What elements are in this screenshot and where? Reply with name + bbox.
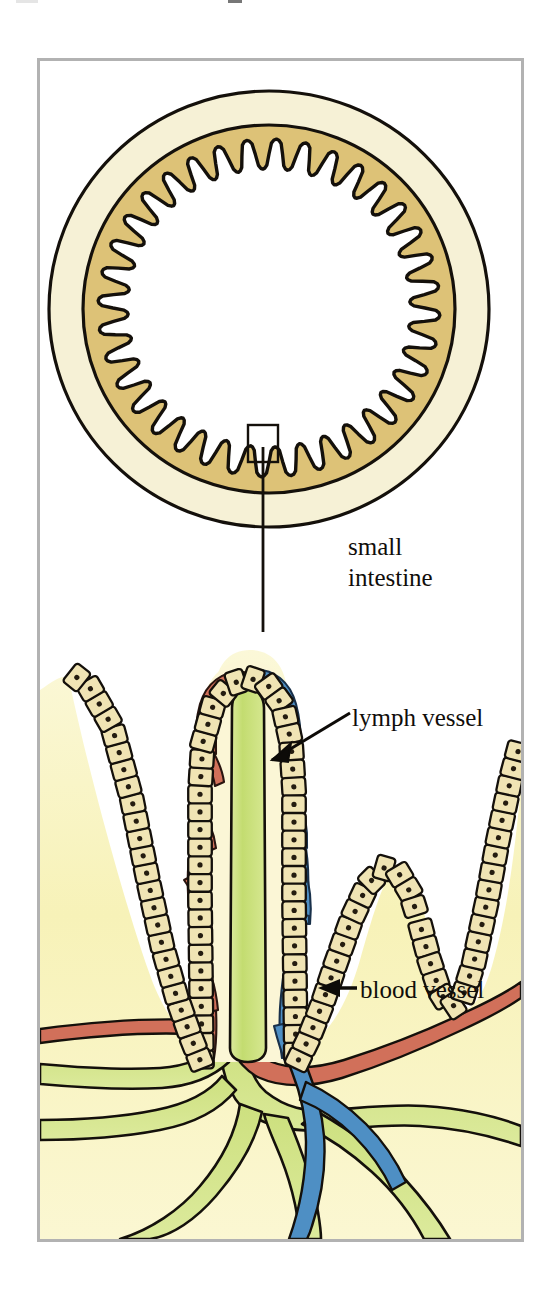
cell-nucleus <box>197 827 202 832</box>
label-blood-vessel: blood vessel <box>360 975 484 1006</box>
cell-nucleus <box>291 873 296 878</box>
epithelial-cell <box>283 937 307 956</box>
cell-nucleus <box>197 809 202 814</box>
epithelial-cell <box>188 820 212 838</box>
epithelial-cell <box>283 972 307 991</box>
epithelial-cell <box>283 990 307 1009</box>
cell-nucleus <box>291 820 296 825</box>
label-small-intestine-line2: intestine <box>348 563 433 594</box>
epithelial-cell <box>282 866 306 884</box>
epithelial-cell <box>282 884 306 902</box>
epithelial-cell <box>189 944 213 963</box>
epithelial-cell <box>188 838 212 856</box>
epithelial-cell <box>189 979 213 998</box>
cell-nucleus <box>291 837 296 842</box>
epithelial-cell <box>281 777 306 797</box>
epithelial-cell <box>188 803 212 821</box>
epithelial-cell <box>188 873 212 891</box>
villus-detail-panel <box>40 650 532 1239</box>
cell-nucleus <box>197 880 202 885</box>
lacteal-lymph-vessel <box>230 688 266 1062</box>
figure-canvas: small intestine lymph vessel blood vesse… <box>0 0 558 1309</box>
cell-nucleus <box>291 890 296 895</box>
label-small-intestine-line1: small <box>348 532 433 563</box>
epithelial-cell <box>188 856 212 874</box>
label-small-intestine: small intestine <box>348 532 433 593</box>
cell-nucleus <box>197 862 202 867</box>
epithelial-cell <box>282 795 306 813</box>
epithelial-cell <box>282 919 306 938</box>
cell-nucleus <box>291 802 296 807</box>
cell-nucleus <box>197 845 202 850</box>
cell-nucleus <box>291 855 296 860</box>
epithelial-cell <box>189 926 213 945</box>
epithelial-cell <box>188 891 212 910</box>
epithelial-cell <box>282 848 306 866</box>
label-lymph-vessel: lymph vessel <box>352 703 483 734</box>
epithelial-cell <box>188 785 212 803</box>
epithelial-cell <box>282 813 306 831</box>
epithelial-cell <box>189 962 213 981</box>
epithelial-cell <box>282 831 306 849</box>
epithelial-cell <box>283 954 307 973</box>
cell-nucleus <box>197 792 202 797</box>
epithelial-cell <box>282 901 306 920</box>
epithelial-cell <box>188 909 212 928</box>
diagram-artwork <box>0 0 558 1309</box>
